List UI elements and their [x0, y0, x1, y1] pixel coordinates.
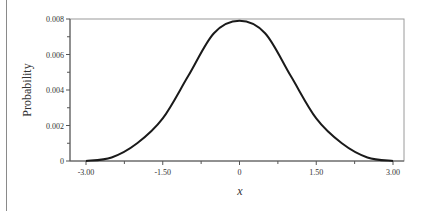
y-axis-label: Probability [20, 63, 34, 116]
y-tick-label: 0 [60, 157, 64, 166]
x-tick-label: -3.00 [78, 168, 95, 177]
y-tick-label: 0.006 [46, 51, 64, 60]
probability-chart: 00.0020.0040.0060.008 -3.00-1.5001.503.0… [0, 0, 424, 211]
x-axis: -3.00-1.5001.503.00 [78, 161, 400, 177]
y-axis: 00.0020.0040.0060.008 [46, 15, 70, 166]
density-curve [86, 21, 393, 161]
x-tick-label: -1.50 [154, 168, 171, 177]
y-tick-label: 0.002 [46, 122, 64, 131]
x-tick-label: 0 [238, 168, 242, 177]
y-tick-label: 0.008 [46, 15, 64, 24]
plot-frame [70, 19, 404, 161]
x-tick-label: 3.00 [386, 168, 400, 177]
x-axis-label: x [236, 184, 243, 198]
x-tick-label: 1.50 [309, 168, 323, 177]
y-tick-label: 0.004 [46, 86, 64, 95]
